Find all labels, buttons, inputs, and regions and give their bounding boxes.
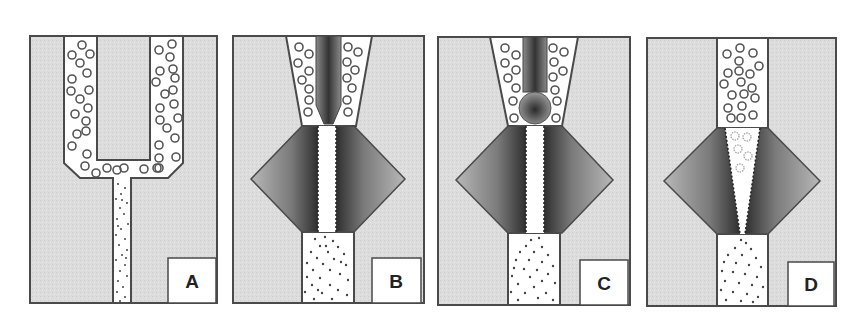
panel-d-label: D [804, 274, 818, 295]
panel-b-outlet [302, 232, 354, 303]
panel-a: A [30, 36, 217, 303]
panel-d: D [647, 38, 836, 306]
panel-c-needle [523, 37, 547, 92]
panel-c-label: C [597, 273, 611, 294]
panel-b-label: B [389, 271, 403, 292]
panel-b-needle [316, 36, 341, 124]
diagram-canvas: A B [0, 0, 852, 317]
panel-b: B [233, 36, 424, 303]
figure: A B [0, 0, 852, 317]
panel-a-center-core [97, 36, 150, 160]
panel-c-ball [519, 92, 551, 124]
panel-c-bore [526, 126, 544, 233]
panel-c-outlet [508, 233, 560, 305]
panel-d-outlet [717, 234, 768, 306]
panel-c: C [438, 37, 630, 305]
panel-b-bore [318, 126, 336, 232]
panel-a-label: A [185, 271, 199, 292]
